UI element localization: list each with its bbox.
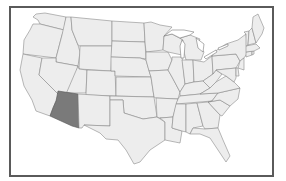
state-florida[interactable] <box>190 128 230 162</box>
state-delaware[interactable] <box>236 68 239 76</box>
state-new-mexico[interactable] <box>78 94 110 128</box>
state-kansas[interactable] <box>116 77 154 97</box>
us-map <box>0 0 286 181</box>
state-north-dakota[interactable] <box>112 21 145 42</box>
state-iowa[interactable] <box>146 52 172 71</box>
state-montana[interactable] <box>71 17 112 46</box>
state-wyoming[interactable] <box>79 46 112 71</box>
state-rhode-island[interactable] <box>252 51 254 55</box>
state-south-dakota[interactable] <box>111 41 146 59</box>
state-colorado[interactable] <box>86 70 116 96</box>
state-nebraska[interactable] <box>111 57 151 77</box>
